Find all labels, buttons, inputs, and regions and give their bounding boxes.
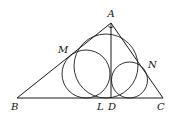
label-a: A [107,8,115,19]
label-c: C [157,101,165,112]
label-m: M [57,44,69,55]
label-d: D [107,101,116,112]
label-l: L [96,101,104,112]
label-n: N [147,59,158,70]
segment-ab [17,23,111,98]
geometry-figure: A M N B L D C [0,0,176,116]
incircle-abc [74,34,138,98]
label-b: B [10,101,18,112]
incircle-adc [112,62,148,98]
diagram-canvas: A M N B L D C [0,0,176,116]
